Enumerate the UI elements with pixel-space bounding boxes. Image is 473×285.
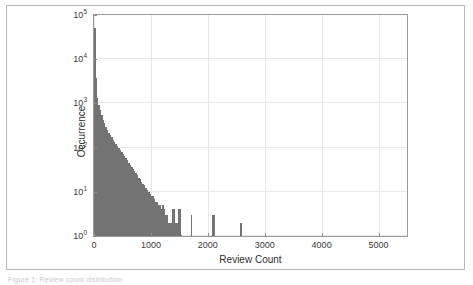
x-tick-mark bbox=[94, 233, 95, 237]
x-tick-mark bbox=[265, 233, 266, 237]
x-tick-label: 4000 bbox=[297, 240, 347, 250]
x-axis-label: Review Count bbox=[93, 254, 408, 265]
x-tick-label: 5000 bbox=[354, 240, 404, 250]
gridline-horizontal bbox=[94, 14, 407, 15]
x-tick-mark bbox=[208, 233, 209, 237]
gridline-vertical bbox=[379, 15, 380, 236]
gridline-vertical bbox=[208, 15, 209, 236]
x-tick-mark bbox=[379, 233, 380, 237]
y-tick-mark bbox=[93, 148, 97, 149]
y-tick-mark bbox=[93, 103, 97, 104]
histogram-bar bbox=[179, 209, 181, 236]
x-tick-label: 0 bbox=[69, 240, 119, 250]
y-tick-mark bbox=[93, 15, 97, 16]
histogram-bar bbox=[213, 215, 215, 236]
gridline-vertical bbox=[322, 15, 323, 236]
gridline-vertical bbox=[265, 15, 266, 236]
x-tick-label: 3000 bbox=[240, 240, 290, 250]
gridline-horizontal bbox=[94, 102, 407, 103]
y-tick-mark bbox=[93, 192, 97, 193]
histogram-bar bbox=[240, 223, 242, 236]
figure-caption-sliver: Figure 1: Review count distribution bbox=[8, 276, 128, 284]
y-axis-label: Occurrence bbox=[76, 77, 87, 187]
y-tick-mark bbox=[93, 59, 97, 60]
gridline-horizontal bbox=[94, 147, 407, 148]
y-axis-label-wrapper: Occurrence bbox=[60, 14, 74, 237]
histogram-bar bbox=[181, 235, 183, 236]
histogram-bar bbox=[191, 215, 193, 236]
x-tick-label: 1000 bbox=[126, 240, 176, 250]
gridline-horizontal bbox=[94, 58, 407, 59]
x-tick-label: 2000 bbox=[183, 240, 233, 250]
plot-area bbox=[93, 14, 408, 237]
x-tick-mark bbox=[151, 233, 152, 237]
histogram-chart: 100101102103104105 010002000300040005000… bbox=[0, 0, 473, 285]
x-tick-mark bbox=[322, 233, 323, 237]
